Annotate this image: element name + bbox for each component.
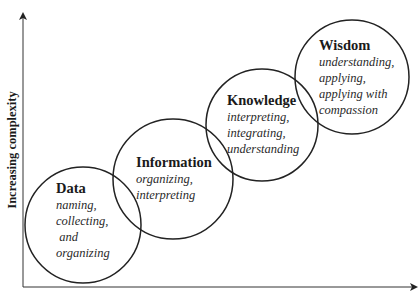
stage-description: organizing, interpreting <box>136 171 212 203</box>
stage-title: Knowledge <box>227 92 299 109</box>
stage-wisdom: Wisdom understanding, applying, applying… <box>319 37 394 118</box>
stage-data: Data naming, collecting, and organizing <box>56 180 110 261</box>
y-axis-label: Increasing complexity <box>5 91 20 208</box>
stage-title: Information <box>136 154 212 171</box>
stage-description: understanding, applying, applying with c… <box>319 54 394 118</box>
stage-title: Wisdom <box>319 37 394 54</box>
stage-description: naming, collecting, and organizing <box>56 197 110 261</box>
stage-information: Information organizing, interpreting <box>136 154 212 203</box>
stage-knowledge: Knowledge interpreting, integrating, und… <box>227 92 299 157</box>
stage-description: interpreting, integrating, understanding <box>227 109 299 157</box>
stage-title: Data <box>56 180 110 197</box>
